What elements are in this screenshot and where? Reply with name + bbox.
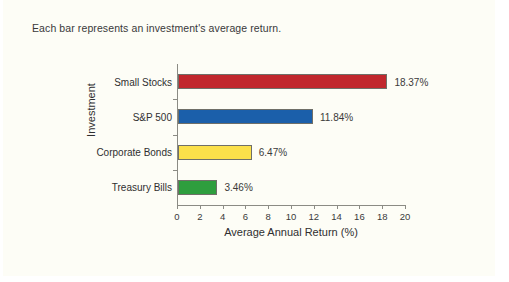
x-axis-tick [268,205,269,209]
bar-treasury-bills [178,180,217,195]
x-axis-tick-label: 16 [354,211,365,222]
x-axis-tick-label: 0 [174,211,179,222]
y-axis-tick [173,135,177,136]
x-axis-tick-label: 6 [243,211,248,222]
x-axis-tick [314,205,315,209]
x-axis-tick [337,205,338,209]
x-axis-tick-label: 14 [331,211,342,222]
bar-s-p-500 [178,109,313,124]
x-axis-tick [405,205,406,209]
y-axis-category-label: Corporate Bonds [96,147,172,158]
category-label-group: Small StocksS&P 500Corporate BondsTreasu… [80,64,172,205]
x-axis-tick-label: 2 [197,211,202,222]
y-axis-tick [173,170,177,171]
x-axis-tick [291,205,292,209]
x-axis-tick-label: 20 [400,211,411,222]
bar-value-label: 3.46% [224,182,252,193]
plot-area: 0246810121416182018.37%11.84%6.47%3.46% [177,64,405,205]
bar-value-label: 18.37% [394,76,428,87]
x-axis-tick [177,205,178,209]
y-axis-tick [173,99,177,100]
x-axis-tick-label: 8 [266,211,271,222]
x-axis-tick-label: 4 [220,211,225,222]
chart-figure: Each bar represents an investment's aver… [0,0,509,282]
x-axis-title: Average Annual Return (%) [177,226,405,238]
x-axis-tick [382,205,383,209]
x-axis-tick [200,205,201,209]
x-axis-tick [245,205,246,209]
x-axis-tick [359,205,360,209]
x-axis-tick-label: 10 [286,211,297,222]
x-axis-tick [223,205,224,209]
page-bottom-edge [0,276,509,282]
page-left-edge [0,0,3,282]
bar-corporate-bonds [178,145,252,160]
y-axis-category-label: S&P 500 [133,111,172,122]
bar-value-label: 6.47% [259,147,287,158]
y-axis-category-label: Small Stocks [114,76,172,87]
x-axis-tick-label: 18 [377,211,388,222]
figure-caption: Each bar represents an investment's aver… [32,22,281,34]
y-axis-category-label: Treasury Bills [112,182,172,193]
page-right-edge [495,0,509,282]
bar-small-stocks [178,74,387,89]
x-axis-tick-label: 12 [309,211,320,222]
bar-value-label: 11.84% [320,111,353,122]
